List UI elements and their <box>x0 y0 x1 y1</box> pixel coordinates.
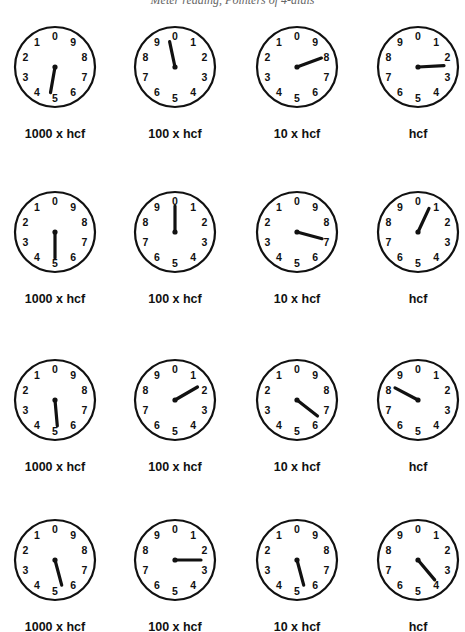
dial-face-icon: 0123456789 <box>370 186 465 278</box>
dial-digit: 4 <box>276 86 282 98</box>
dial-digit: 2 <box>23 216 29 228</box>
dial-digit: 7 <box>324 236 330 248</box>
meter-dial: 098765432110 x hcf <box>242 514 352 632</box>
dial-digit: 2 <box>265 384 271 396</box>
dial-digit: 9 <box>312 529 318 541</box>
dial-digit: 8 <box>82 51 88 63</box>
dial-face-icon: 0987654321 <box>7 354 103 446</box>
dial-digit: 9 <box>154 529 160 541</box>
dial-label: hcf <box>363 620 465 632</box>
dial-digit: 9 <box>154 201 160 213</box>
dial-digit: 7 <box>386 236 392 248</box>
dial-digit: 6 <box>312 579 318 591</box>
dial-digit: 2 <box>202 51 208 63</box>
dial-digit: 4 <box>276 251 282 263</box>
dial-digit: 2 <box>265 544 271 556</box>
dial-face-icon: 0987654321 <box>7 186 103 278</box>
dial-digit: 8 <box>324 544 330 556</box>
dial-digit: 5 <box>172 585 178 597</box>
dial-digit: 9 <box>70 201 76 213</box>
dial-face-icon: 0123456789 <box>127 21 223 113</box>
dial-digit: 0 <box>415 30 421 42</box>
dial-digit: 5 <box>52 92 58 104</box>
dial-digit: 3 <box>265 564 271 576</box>
dial-pointer-icon <box>418 560 435 580</box>
dial-pointer-icon <box>297 58 321 67</box>
dial-digit: 0 <box>172 523 178 535</box>
dial-digit: 3 <box>445 564 451 576</box>
dial-label: 1000 x hcf <box>0 460 110 474</box>
dial-digit: 0 <box>52 363 58 375</box>
meter-dial: 0123456789hcf <box>363 186 465 306</box>
dial-digit: 4 <box>190 419 196 431</box>
dial-digit: 6 <box>397 579 403 591</box>
meter-dial: 0123456789100 x hcf <box>120 21 230 141</box>
dial-pointer-icon <box>175 387 198 400</box>
dial-digit: 0 <box>52 523 58 535</box>
dial-digit: 8 <box>82 216 88 228</box>
dial-digit: 4 <box>34 86 40 98</box>
dial-digit: 7 <box>143 71 149 83</box>
dial-pointer-icon <box>297 232 322 239</box>
dial-digit: 6 <box>154 419 160 431</box>
dial-digit: 1 <box>34 36 40 48</box>
dial-digit: 7 <box>82 71 88 83</box>
dial-pointer-icon <box>297 560 304 585</box>
dial-pointer-icon <box>51 67 56 93</box>
dial-digit: 4 <box>276 419 282 431</box>
dial-digit: 7 <box>324 404 330 416</box>
dial-digit: 3 <box>445 71 451 83</box>
dial-digit: 2 <box>265 216 271 228</box>
dial-digit: 5 <box>172 257 178 269</box>
meter-dial: 09876543211000 x hcf <box>0 514 110 632</box>
dial-digit: 3 <box>445 404 451 416</box>
dial-label: 1000 x hcf <box>0 620 110 632</box>
dial-digit: 4 <box>433 419 439 431</box>
dial-digit: 8 <box>386 544 392 556</box>
dial-digit: 5 <box>294 92 300 104</box>
dial-label: 1000 x hcf <box>0 127 110 141</box>
dial-digit: 1 <box>34 201 40 213</box>
dial-digit: 6 <box>70 251 76 263</box>
dial-digit: 6 <box>154 86 160 98</box>
dial-digit: 1 <box>276 201 282 213</box>
dial-digit: 2 <box>265 51 271 63</box>
dial-digit: 5 <box>415 585 421 597</box>
dial-digit: 5 <box>172 425 178 437</box>
dial-digit: 0 <box>415 195 421 207</box>
dial-digit: 5 <box>294 425 300 437</box>
dial-digit: 0 <box>52 195 58 207</box>
meter-dial: 0123456789100 x hcf <box>120 354 230 474</box>
dial-digit: 0 <box>294 30 300 42</box>
dial-digit: 9 <box>397 529 403 541</box>
dial-digit: 7 <box>82 236 88 248</box>
meter-dial: 09876543211000 x hcf <box>0 21 110 141</box>
dial-digit: 5 <box>415 257 421 269</box>
dial-digit: 8 <box>324 384 330 396</box>
meter-dial: 0123456789100 x hcf <box>120 186 230 306</box>
dial-digit: 3 <box>265 404 271 416</box>
dial-label: 10 x hcf <box>242 460 352 474</box>
dial-face-icon: 0123456789 <box>127 186 223 278</box>
dial-digit: 5 <box>415 425 421 437</box>
dial-label: hcf <box>363 292 465 306</box>
dial-digit: 3 <box>23 404 29 416</box>
dial-label: 10 x hcf <box>242 620 352 632</box>
dial-digit: 5 <box>172 92 178 104</box>
dial-digit: 7 <box>143 236 149 248</box>
dial-digit: 0 <box>294 523 300 535</box>
dial-digit: 1 <box>433 36 439 48</box>
dial-digit: 7 <box>324 71 330 83</box>
dial-digit: 8 <box>386 51 392 63</box>
dial-digit: 9 <box>70 369 76 381</box>
dial-digit: 9 <box>397 36 403 48</box>
dial-pointer-icon <box>170 42 175 67</box>
dial-digit: 5 <box>294 257 300 269</box>
dial-digit: 9 <box>70 529 76 541</box>
dial-face-icon: 0123456789 <box>370 354 465 446</box>
dial-digit: 7 <box>143 404 149 416</box>
dial-face-icon: 0123456789 <box>370 21 465 113</box>
dial-digit: 8 <box>386 384 392 396</box>
dial-digit: 8 <box>143 51 149 63</box>
dial-digit: 4 <box>190 251 196 263</box>
